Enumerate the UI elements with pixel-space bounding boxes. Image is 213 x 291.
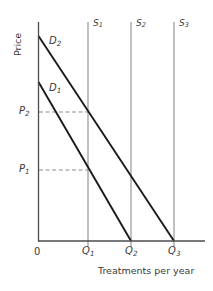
q3-subscript: 3 [176, 249, 181, 258]
d1-base: D [49, 82, 57, 93]
price-label-p2: P2 [19, 106, 30, 117]
y-axis-title: Price [13, 33, 23, 56]
s2-subscript: 2 [142, 21, 146, 29]
d2-subscript: 2 [57, 39, 62, 48]
p1-subscript: 1 [25, 167, 30, 176]
demand-curve-d1-label: D1 [49, 83, 61, 94]
s3-subscript: 3 [185, 21, 189, 29]
origin-label: 0 [34, 247, 40, 257]
demand-curve-d2-label: D2 [49, 36, 61, 47]
d1-subscript: 1 [57, 86, 62, 95]
supply-demand-chart: Price Treatments per year 0 D2 D1 S1 S2 … [0, 0, 213, 291]
supply-line-s3-label: S3 [179, 19, 189, 29]
quantity-label-q3: Q3 [168, 246, 180, 257]
supply-line-s2-label: S2 [136, 19, 146, 29]
quantity-label-q1: Q1 [82, 246, 94, 257]
q1-subscript: 1 [90, 249, 95, 258]
d2-base: D [49, 35, 57, 46]
q1-base: Q [82, 245, 90, 256]
x-axis-title: Treatments per year [98, 266, 194, 276]
s1-subscript: 1 [99, 21, 103, 29]
supply-line-s1-label: S1 [93, 19, 103, 29]
quantity-label-q2: Q2 [125, 246, 137, 257]
q2-base: Q [125, 245, 133, 256]
demand-curve-d2 [39, 36, 175, 241]
q3-base: Q [168, 245, 176, 256]
q2-subscript: 2 [133, 249, 138, 258]
chart-canvas [0, 0, 213, 291]
price-label-p1: P1 [19, 164, 30, 175]
p2-subscript: 2 [25, 109, 30, 118]
